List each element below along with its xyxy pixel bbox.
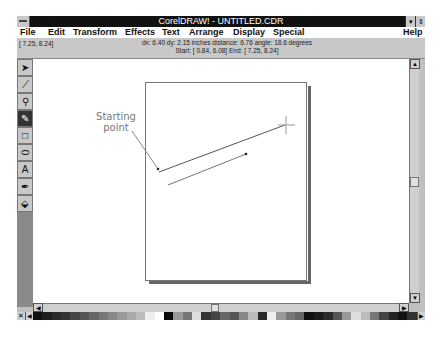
color-swatch[interactable] [183, 312, 192, 320]
color-swatch[interactable] [70, 312, 79, 320]
scroll-left-button[interactable]: ◀ [33, 303, 43, 312]
color-swatch[interactable] [33, 312, 42, 320]
color-swatch[interactable] [89, 312, 98, 320]
ellipse-tool[interactable]: ⬭ [17, 144, 33, 161]
menu-text[interactable]: Text [162, 27, 180, 38]
text-a-icon: A [22, 164, 29, 175]
palette-scroll-right[interactable]: ▶ [417, 312, 425, 320]
color-swatch[interactable] [80, 312, 89, 320]
color-swatch[interactable] [108, 312, 117, 320]
color-swatch[interactable] [155, 312, 164, 320]
color-swatch[interactable] [145, 312, 154, 320]
menu-bar: File Edit Transform Effects Text Arrange… [17, 27, 425, 38]
color-swatch[interactable] [342, 312, 351, 320]
color-swatch[interactable] [258, 312, 267, 320]
color-swatch[interactable] [192, 312, 201, 320]
color-swatch[interactable] [333, 312, 342, 320]
color-swatch[interactable] [276, 312, 285, 320]
arrow-right-icon: ▶ [402, 305, 407, 311]
page-shadow-right [308, 86, 311, 284]
pencil-tool[interactable]: ✎ [17, 110, 33, 127]
color-swatch[interactable] [286, 312, 295, 320]
pick-tool[interactable]: ➤ [17, 59, 33, 76]
horizontal-scrollbar[interactable]: ◀ ▶ [33, 303, 409, 312]
color-swatch[interactable] [398, 312, 407, 320]
color-swatch[interactable] [52, 312, 61, 320]
no-fill-swatch[interactable]: ✕ [17, 312, 25, 320]
rectangle-tool[interactable]: □ [17, 127, 33, 144]
menu-effects[interactable]: Effects [125, 27, 155, 38]
color-swatch[interactable] [323, 312, 332, 320]
zoom-tool[interactable]: ⚲ [17, 93, 33, 110]
color-swatch[interactable] [173, 312, 182, 320]
color-swatch[interactable] [239, 312, 248, 320]
menu-edit[interactable]: Edit [48, 27, 65, 38]
color-swatch[interactable] [304, 312, 313, 320]
color-swatch[interactable] [248, 312, 257, 320]
arrow-up-icon: ▲ [412, 61, 418, 67]
color-swatch[interactable] [127, 312, 136, 320]
color-swatch[interactable] [351, 312, 360, 320]
page-drawing [33, 59, 409, 303]
shape-node-icon: ⟋ [22, 79, 29, 90]
menu-transform[interactable]: Transform [73, 27, 117, 38]
arrow-right-icon: ▶ [419, 313, 424, 319]
outline-tool[interactable]: ✒ [17, 178, 33, 195]
magnifier-icon: ⚲ [22, 96, 29, 107]
color-swatch[interactable] [211, 312, 220, 320]
vertical-scroll-thumb[interactable] [410, 177, 419, 187]
color-swatch[interactable] [389, 312, 398, 320]
color-swatch[interactable] [379, 312, 388, 320]
menu-help[interactable]: Help [403, 27, 423, 38]
line-info: dx: 6.40 dy: 2.15 inches distance: 6.76 … [127, 39, 327, 55]
color-swatch[interactable] [99, 312, 108, 320]
line-endpoints: Start: [ 0.84, 6.08] End: [ 7.25, 8.24] [127, 47, 327, 55]
scroll-up-button[interactable]: ▲ [410, 59, 420, 69]
shape-tool[interactable]: ⟋ [17, 76, 33, 93]
minimize-button[interactable]: ▾ [405, 16, 415, 27]
arrow-pointer-icon: ➤ [21, 62, 29, 73]
drawing-canvas[interactable]: Starting point [33, 59, 409, 303]
pen-nib-icon: ✒ [21, 181, 29, 192]
color-swatch[interactable] [370, 312, 379, 320]
title-bar: CorelDRAW! - UNTITLED.CDR ▾ ⇕ [17, 16, 425, 27]
color-palette: ✕ ◀ ▶ [17, 312, 425, 320]
color-swatch[interactable] [407, 312, 416, 320]
color-swatch[interactable] [230, 312, 239, 320]
menu-file[interactable]: File [20, 27, 36, 38]
restore-button[interactable]: ⇕ [415, 16, 425, 27]
paint-bucket-icon: ⬙ [21, 198, 29, 209]
annotation-line-1: Starting [93, 111, 139, 122]
pencil-icon: ✎ [21, 113, 29, 124]
fill-tool[interactable]: ⬙ [17, 195, 33, 212]
color-swatch[interactable] [117, 312, 126, 320]
color-swatch[interactable] [201, 312, 210, 320]
status-bar: [ 7.25, 8.24] dx: 6.40 dy: 2.15 inches d… [17, 38, 425, 59]
menu-special[interactable]: Special [273, 27, 305, 38]
menu-display[interactable]: Display [233, 27, 265, 38]
color-swatch[interactable] [220, 312, 229, 320]
toolbox: ➤ ⟋ ⚲ ✎ □ ⬭ A ✒ ⬙ [17, 59, 33, 307]
color-swatch[interactable] [42, 312, 51, 320]
palette-scroll-left[interactable]: ◀ [25, 312, 33, 320]
scroll-down-button[interactable]: ▼ [410, 293, 420, 303]
menu-arrange[interactable]: Arrange [189, 27, 224, 38]
color-swatch[interactable] [136, 312, 145, 320]
system-menu-button[interactable] [17, 16, 30, 27]
color-swatch[interactable] [295, 312, 304, 320]
color-swatch[interactable] [314, 312, 323, 320]
palette-swatches [33, 312, 417, 320]
line-measurements: dx: 6.40 dy: 2.15 inches distance: 6.76 … [127, 39, 327, 47]
color-swatch[interactable] [267, 312, 276, 320]
annotation-line-2: point [93, 122, 139, 133]
horizontal-scroll-thumb[interactable] [211, 304, 219, 312]
starting-point-label: Starting point [93, 111, 139, 133]
color-swatch[interactable] [61, 312, 70, 320]
restore-icon: ⇕ [418, 18, 424, 25]
text-tool[interactable]: A [17, 161, 33, 178]
vertical-scrollbar[interactable]: ▲ ▼ [409, 59, 419, 303]
color-swatch[interactable] [164, 312, 173, 320]
color-swatch[interactable] [361, 312, 370, 320]
scroll-right-button[interactable]: ▶ [399, 303, 409, 312]
x-icon: ✕ [18, 312, 24, 319]
